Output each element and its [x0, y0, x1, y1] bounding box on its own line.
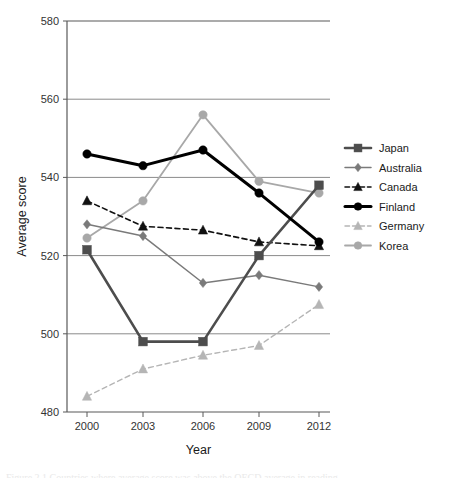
y-tick-label: 580 [41, 15, 59, 27]
data-point [315, 181, 324, 190]
data-point [82, 196, 91, 205]
data-point [83, 220, 90, 229]
data-point [315, 238, 323, 246]
data-point [83, 245, 92, 254]
legend-item-australia[interactable]: Australia [345, 162, 423, 174]
y-tick-label: 500 [41, 328, 59, 340]
data-point [255, 189, 263, 197]
legend-item-japan[interactable]: Japan [345, 142, 409, 154]
y-tick-label: 540 [41, 171, 59, 183]
data-point [139, 197, 147, 205]
x-axis-title: Year [186, 443, 211, 457]
data-point [315, 282, 322, 291]
data-point [199, 111, 207, 119]
series-germany [82, 299, 323, 400]
x-tick-label: 2006 [191, 420, 215, 432]
data-point [139, 337, 148, 346]
series-line [87, 115, 319, 238]
x-tick-label: 2009 [247, 420, 271, 432]
chart-figure: 48050052054056058020002003200620092012Ye… [0, 0, 449, 478]
legend: JapanAustraliaCanadaFinlandGermanyKorea [345, 142, 425, 252]
data-point [255, 271, 262, 280]
line-chart: 48050052054056058020002003200620092012Ye… [0, 0, 449, 478]
legend-marker [354, 203, 362, 211]
legend-item-germany[interactable]: Germany [345, 220, 425, 232]
data-point [139, 161, 147, 169]
legend-label: Australia [379, 162, 423, 174]
y-tick-label: 560 [41, 93, 59, 105]
y-tick-label: 520 [41, 250, 59, 262]
data-point [139, 231, 146, 240]
data-point [255, 251, 264, 260]
data-point [199, 337, 208, 346]
data-point [314, 299, 323, 308]
data-point [83, 234, 91, 242]
legend-marker [354, 242, 362, 250]
x-tick-label: 2003 [131, 420, 155, 432]
legend-label: Korea [379, 240, 409, 252]
legend-marker [354, 144, 362, 152]
x-tick-label: 2012 [307, 420, 331, 432]
data-point [199, 146, 207, 154]
x-tick-label: 2000 [75, 420, 99, 432]
legend-label: Canada [379, 181, 418, 193]
figure-caption: Figure 2.1 Countries where average score… [0, 467, 449, 478]
legend-item-korea[interactable]: Korea [345, 240, 409, 252]
series-line [87, 201, 319, 246]
legend-item-canada[interactable]: Canada [345, 181, 418, 193]
data-point [138, 364, 147, 373]
legend-label: Japan [379, 142, 409, 154]
data-point [83, 150, 91, 158]
y-tick-label: 480 [41, 406, 59, 418]
legend-item-finland[interactable]: Finland [345, 201, 415, 213]
y-axis-title: Average score [15, 176, 29, 256]
data-point [199, 278, 206, 287]
series-japan [83, 181, 324, 346]
data-point [255, 177, 263, 185]
legend-label: Finland [379, 201, 415, 213]
series-line [87, 185, 319, 341]
data-point [254, 341, 263, 350]
legend-marker [355, 163, 362, 171]
legend-label: Germany [379, 220, 425, 232]
data-point [82, 391, 91, 400]
